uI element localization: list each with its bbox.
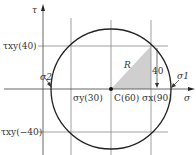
mohr-circle-diagram: τ σ τxy(40) τxy(−40) σy(30) C(60) σx(90)…	[0, 0, 196, 155]
height-40-label: 40	[152, 66, 164, 76]
sigma-axis-arrow-icon	[188, 87, 195, 91]
height-arrow-down-icon	[155, 83, 159, 88]
sigma-y-label: σy(30)	[73, 93, 103, 103]
center-label: C(60)	[114, 93, 139, 103]
radius-label: R	[123, 60, 131, 70]
tau-xy-neg-label: τxy(−40)	[1, 127, 42, 137]
shaded-triangle	[111, 46, 151, 89]
sigma-x-label: σx(90)	[142, 93, 172, 103]
sigma1-label: σ1	[177, 71, 189, 81]
sigma2-label: σ2	[40, 72, 52, 82]
tau-xy-pos-label: τxy(40)	[3, 41, 37, 51]
tau-axis-arrow-icon	[41, 4, 45, 11]
sigma-axis-label: σ	[184, 93, 191, 103]
center-point	[109, 87, 113, 91]
tau-axis-label: τ	[32, 5, 38, 15]
